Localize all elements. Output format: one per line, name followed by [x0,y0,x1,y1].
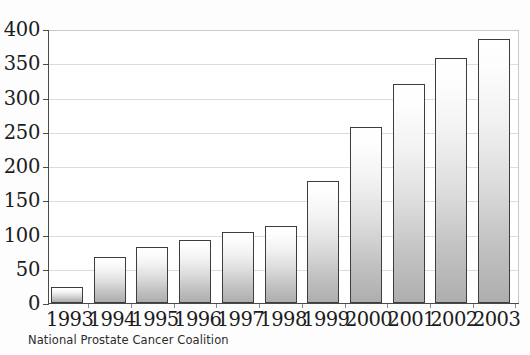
bar [435,58,467,303]
y-axis-tick-label: 250 [0,123,40,143]
x-axis-tick-label: 2002 [430,310,470,330]
x-axis-tick-label: 2003 [473,310,513,330]
x-axis-tick-label: 1998 [260,310,300,330]
y-axis-tick [43,201,49,202]
y-axis-tick [43,30,49,31]
x-axis-tick-label: 1995 [131,310,171,330]
bar [307,181,339,303]
x-axis-tick-label: 2000 [345,310,385,330]
bar [265,226,297,303]
bar [136,247,168,303]
bar [94,257,126,303]
bar [393,84,425,303]
y-axis-tick-label: 100 [0,226,40,246]
bar [478,39,510,303]
bar [179,240,211,303]
y-axis-tick [43,133,49,134]
y-axis-tick [43,64,49,65]
bar [350,127,382,303]
y-axis-tick-label: 350 [0,55,40,75]
bar [51,287,83,303]
y-axis-tick-label: 150 [0,192,40,212]
y-axis-tick [43,270,49,271]
x-axis-tick-label: 1996 [174,310,214,330]
gridline [49,30,519,31]
y-axis-tick [43,167,49,168]
chart-screenshot: 050100150200250300350400 199319941995199… [0,0,530,355]
y-axis-tick-label: 50 [0,260,40,280]
plot-area [48,30,519,304]
y-axis-tick-label: 200 [0,157,40,177]
x-axis-tick-label: 1994 [89,310,129,330]
x-axis-tick-label: 1997 [217,310,257,330]
x-axis-tick-label: 2001 [388,310,428,330]
y-axis-tick [43,236,49,237]
y-axis-tick-label: 0 [0,294,40,314]
bar [222,232,254,303]
source-note: National Prostate Cancer Coalition [28,333,229,347]
y-axis-tick-label: 400 [0,20,40,40]
y-axis-tick-label: 300 [0,89,40,109]
x-axis-tick-label: 1999 [302,310,342,330]
x-axis-tick-label: 1993 [46,310,86,330]
y-axis-tick [43,304,49,305]
y-axis-tick [43,99,49,100]
